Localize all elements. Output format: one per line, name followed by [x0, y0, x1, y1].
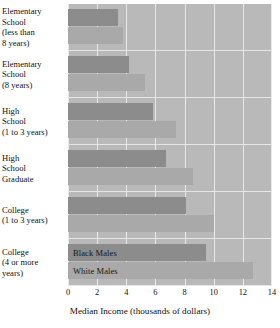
category-label-line: (4 or more — [2, 257, 66, 268]
gridline-horizontal — [68, 238, 272, 239]
bar-group — [68, 56, 272, 95]
bar-chart: Black MalesWhite Males ElementarySchool(… — [0, 0, 280, 328]
x-axis-title: Median Income (thousands of dollars) — [0, 306, 280, 316]
category-label: HighSchoolGraduate — [2, 153, 66, 185]
legend-label-white-males: White Males — [73, 266, 118, 276]
category-label-line: College — [2, 205, 66, 216]
legend-label-black-males: Black Males — [73, 248, 117, 258]
category-label-line: Graduate — [2, 174, 66, 185]
bar-white-males: White Males — [68, 262, 253, 279]
category-label-line: High — [2, 153, 66, 164]
bar-group — [68, 197, 272, 236]
gridline-horizontal — [68, 144, 272, 145]
x-axis: 02468101214 — [68, 286, 272, 302]
bar-white-males — [68, 74, 145, 91]
x-tick-label: 0 — [66, 288, 70, 297]
category-label: HighSchool(1 to 3 years) — [2, 106, 66, 138]
bar-black-males: Black Males — [68, 244, 206, 261]
gridline-horizontal — [68, 191, 272, 192]
category-label: ElementarySchool(8 years) — [2, 59, 66, 91]
x-tick-label: 8 — [182, 288, 186, 297]
bar-white-males — [68, 121, 176, 138]
category-label-line: College — [2, 247, 66, 258]
bar-black-males — [68, 103, 153, 120]
category-label: College(4 or moreyears) — [2, 247, 66, 279]
category-label: ElementarySchool(less than8 years) — [2, 6, 66, 48]
category-label: College(1 to 3 years) — [2, 205, 66, 226]
category-label-line: High — [2, 106, 66, 117]
category-label-line: (1 to 3 years) — [2, 215, 66, 226]
bar-black-males — [68, 197, 186, 214]
bar-white-males — [68, 168, 193, 185]
gridline-horizontal — [68, 50, 272, 51]
bar-white-males — [68, 215, 214, 232]
gridline-horizontal — [68, 97, 272, 98]
category-label-line: years) — [2, 268, 66, 279]
bar-group: Black MalesWhite Males — [68, 244, 272, 283]
bar-black-males — [68, 9, 118, 26]
x-tick-label: 10 — [210, 288, 218, 297]
category-label-line: 8 years) — [2, 38, 66, 49]
x-tick-label: 4 — [124, 288, 128, 297]
bar-group — [68, 150, 272, 189]
bar-group — [68, 9, 272, 48]
plot-area: Black MalesWhite Males — [68, 4, 272, 286]
bar-black-males — [68, 150, 166, 167]
x-tick-label: 2 — [95, 288, 99, 297]
category-label-line: School — [2, 69, 66, 80]
bar-white-males — [68, 27, 123, 44]
category-label-line: (1 to 3 years) — [2, 127, 66, 138]
category-label-line: Elementary — [2, 6, 66, 17]
category-label-line: Elementary — [2, 59, 66, 70]
category-label-line: School — [2, 17, 66, 28]
bar-group — [68, 103, 272, 142]
bar-black-males — [68, 56, 129, 73]
category-label-line: School — [2, 116, 66, 127]
category-label-line: (less than — [2, 27, 66, 38]
x-tick-label: 14 — [268, 288, 276, 297]
x-tick-label: 12 — [239, 288, 247, 297]
category-label-line: (8 years) — [2, 80, 66, 91]
category-label-line: School — [2, 163, 66, 174]
x-tick-label: 6 — [153, 288, 157, 297]
